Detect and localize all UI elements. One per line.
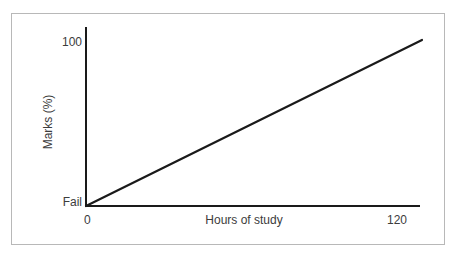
y-tick-top-label: 100	[62, 35, 82, 49]
y-tick-bottom-label: Fail	[63, 195, 82, 209]
y-axis-title: Marks (%)	[41, 95, 55, 150]
data-line	[86, 40, 422, 206]
x-tick-end-label: 120	[387, 213, 407, 227]
x-axis-title: Hours of study	[203, 213, 285, 227]
x-tick-start-label: 0	[84, 213, 91, 227]
